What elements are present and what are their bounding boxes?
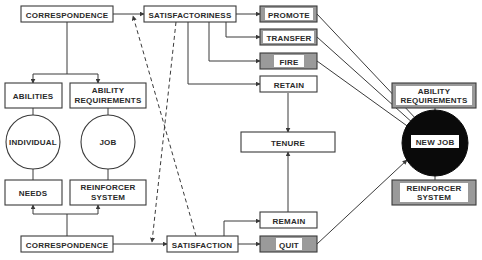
node-correspondence-bottom: CORRESPONDENCE [21,236,113,252]
label: JOB [99,138,116,147]
label: REMAIN [273,217,306,226]
label: REQUIREMENTS [75,96,142,105]
node-retain: RETAIN [260,76,317,92]
label: SYSTEM [91,193,125,202]
node-promote: PROMOTE [260,6,317,22]
node-individual: INDIVIDUAL [6,115,60,169]
label: RETAIN [274,81,304,90]
work-adjustment-diagram: CORRESPONDENCE SATISFACTORINESS PROMOTE … [0,0,482,260]
label: SYSTEM [417,193,451,202]
node-new-job: NEW JOB [402,110,468,176]
node-tenure: TENURE [241,132,335,152]
label: QUIT [279,241,299,250]
label: REQUIREMENTS [401,96,468,105]
label: REINFORCER [407,184,462,193]
label: CORRESPONDENCE [26,11,109,20]
node-satisfaction: SATISFACTION [167,236,238,252]
label: ABILITY [92,86,125,95]
node-remain: REMAIN [260,212,317,228]
label: TRANSFER [266,34,311,43]
label: SATISFACTION [172,241,232,250]
node-reinforcer-system-left: REINFORCER SYSTEM [70,180,146,205]
label: NEW JOB [416,138,455,147]
label: FIRE [279,58,298,67]
label: NEEDS [19,189,48,198]
edge-transfer-newjob [317,37,414,124]
node-reinforcer-system-right: REINFORCER SYSTEM [392,180,476,205]
label: PROMOTE [268,11,310,20]
node-satisfactoriness: SATISFACTORINESS [144,6,236,22]
label: TENURE [271,139,306,148]
edge-to-retain [188,22,260,84]
label: ABILITY [418,87,451,96]
label: INDIVIDUAL [9,138,57,147]
node-fire: FIRE [260,53,317,69]
node-ability-requirements-left: ABILITY REQUIREMENTS [70,83,146,108]
node-ability-requirements-right: ABILITY REQUIREMENTS [392,83,476,108]
node-correspondence-top: CORRESPONDENCE [21,6,113,22]
node-transfer: TRANSFER [260,29,317,45]
label: CORRESPONDENCE [26,241,109,250]
node-quit: QUIT [260,236,317,252]
node-job: JOB [81,115,135,169]
label: ABILITIES [13,92,54,101]
edge-dashed-satisfactoriness-to-satisfaction [152,22,176,242]
label: SATISFACTORINESS [149,11,232,20]
edge-to-remain [224,221,260,236]
node-needs: NEEDS [5,180,62,205]
label: REINFORCER [81,183,136,192]
edge-to-transfer [226,22,260,37]
node-abilities: ABILITIES [5,83,62,108]
edge-to-fire [209,22,260,61]
